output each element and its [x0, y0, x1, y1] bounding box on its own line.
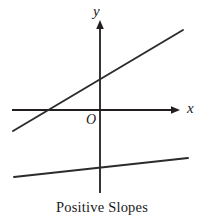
y-axis-arrowhead-icon	[96, 20, 104, 29]
x-axis-arrowhead-icon	[171, 106, 180, 114]
x-axis-label: x	[187, 101, 194, 116]
lower-positive-slope-line	[14, 158, 188, 177]
coordinate-plane-graphic	[0, 0, 204, 224]
origin-label: O	[86, 113, 96, 127]
y-axis-label: y	[93, 4, 100, 19]
upper-positive-slope-line	[13, 30, 183, 131]
figure-caption: Positive Slopes	[0, 199, 204, 216]
positive-slopes-figure: y x O Positive Slopes	[0, 0, 204, 224]
